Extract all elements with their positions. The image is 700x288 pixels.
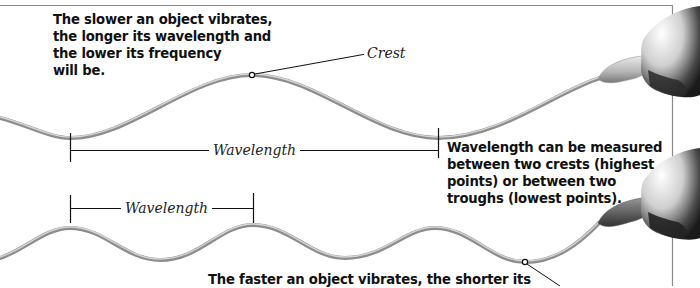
slow-vibration-note: The slower an object vibrates, the longe…	[53, 11, 272, 79]
short-wavelength-label: Wavelength	[121, 200, 212, 216]
long-wavelength-label: Wavelength	[209, 142, 300, 158]
long-wave	[0, 74, 600, 138]
short-wave	[0, 221, 600, 262]
measurement-note: Wavelength can be measured between two c…	[447, 139, 662, 207]
fast-vibration-note: The faster an object vibrates, the short…	[208, 271, 531, 288]
hand-icon-top	[598, 6, 700, 97]
crest-label: Crest	[364, 45, 410, 61]
